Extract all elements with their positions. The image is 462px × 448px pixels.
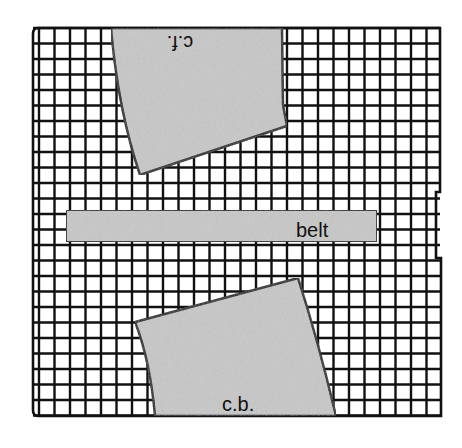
pattern-layout-diagram: c.f. belt c.b. [0,0,462,448]
label-center-back: c.b. [222,393,254,415]
label-belt: belt [296,219,329,241]
label-center-front: c.f. [167,32,194,54]
pattern-piece-belt [66,210,377,242]
